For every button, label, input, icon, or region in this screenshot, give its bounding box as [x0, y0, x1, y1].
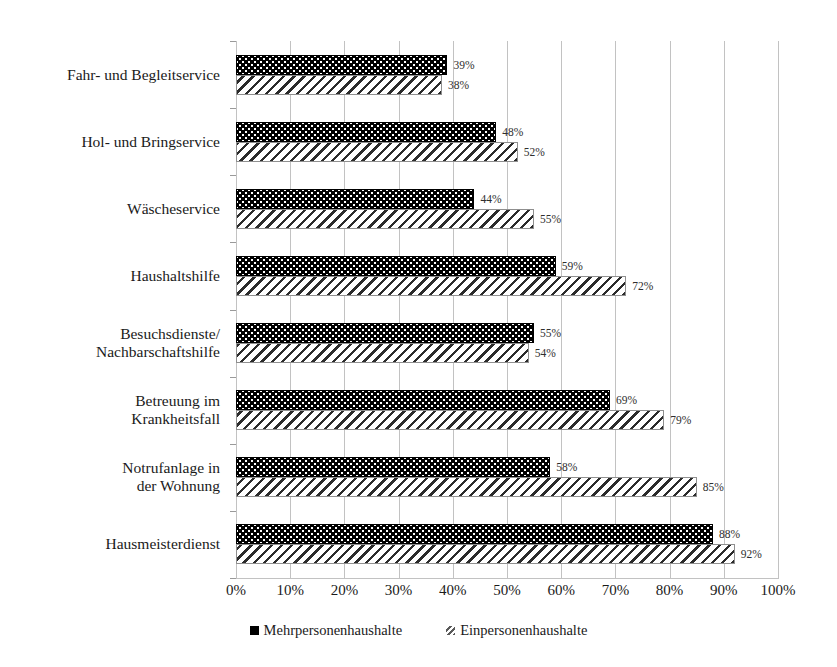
legend-label: Mehrpersonenhaushalte: [264, 622, 403, 639]
gridline-90pct: [724, 41, 725, 578]
bar-mehrpersonenhaushalte: [236, 256, 556, 276]
x-tick-label: 20%: [331, 582, 359, 599]
legend-item-mehrpersonenhaushalte: Mehrpersonenhaushalte: [250, 622, 403, 639]
gridline-60pct: [561, 41, 562, 578]
gridline-80pct: [670, 41, 671, 578]
y-axis-tick: [230, 175, 236, 176]
bar-value-label: 58%: [556, 457, 577, 477]
bar-value-label: 52%: [524, 142, 545, 162]
category-axis-labels: Fahr- und BegleitserviceHol- und Bringse…: [0, 41, 228, 578]
bar-einpersonenhaushalte: [236, 142, 518, 162]
bar-value-label: 44%: [480, 189, 501, 209]
bar-value-label: 79%: [670, 410, 691, 430]
legend-swatch-icon: [250, 626, 259, 635]
bar-einpersonenhaushalte: [236, 75, 442, 95]
bar-mehrpersonenhaushalte: [236, 323, 534, 343]
x-axis-tick-labels: 0%10%20%30%40%50%60%70%80%90%100%: [236, 582, 778, 604]
x-tick-label: 100%: [761, 582, 796, 599]
bar-value-label: 88%: [719, 524, 740, 544]
legend-label: Einpersonenhaushalte: [460, 622, 587, 639]
x-tick-label: 90%: [710, 582, 738, 599]
bar-value-label: 92%: [741, 544, 762, 564]
category-label: Hausmeisterdienst: [0, 535, 220, 553]
plot-area: 39%48%44%59%55%69%58%88%38%52%55%72%54%7…: [236, 41, 778, 578]
bar-einpersonenhaushalte: [236, 477, 697, 497]
category-label: Besuchsdienste/ Nachbarschaftshilfe: [0, 325, 220, 361]
bar-einpersonenhaushalte: [236, 544, 735, 564]
legend-item-einpersonenhaushalte: Einpersonenhaushalte: [446, 622, 587, 639]
y-axis-tick: [230, 377, 236, 378]
bar-mehrpersonenhaushalte: [236, 390, 610, 410]
bar-value-label: 38%: [448, 75, 469, 95]
bar-value-label: 55%: [540, 323, 561, 343]
bar-value-label: 48%: [502, 122, 523, 142]
y-axis-tick: [230, 242, 236, 243]
y-axis-tick: [230, 310, 236, 311]
y-axis-tick: [230, 41, 236, 42]
bar-chart: Fahr- und BegleitserviceHol- und Bringse…: [0, 0, 837, 667]
x-axis-line: [236, 578, 779, 579]
x-tick-label: 0%: [226, 582, 246, 599]
bar-einpersonenhaushalte: [236, 209, 534, 229]
gridline-100pct: [778, 41, 779, 578]
x-tick-label: 10%: [276, 582, 304, 599]
y-axis-tick: [230, 108, 236, 109]
bar-value-label: 39%: [453, 55, 474, 75]
gridline-70pct: [615, 41, 616, 578]
category-label: Hol- und Bringservice: [0, 133, 220, 151]
x-tick-label: 70%: [602, 582, 630, 599]
bar-value-label: 69%: [616, 390, 637, 410]
bar-mehrpersonenhaushalte: [236, 189, 474, 209]
bar-mehrpersonenhaushalte: [236, 524, 713, 544]
bar-mehrpersonenhaushalte: [236, 55, 447, 75]
y-axis-tick: [230, 511, 236, 512]
bar-mehrpersonenhaushalte: [236, 122, 496, 142]
x-tick-label: 50%: [493, 582, 521, 599]
y-axis-tick: [230, 578, 236, 579]
bar-einpersonenhaushalte: [236, 343, 529, 363]
x-tick-label: 60%: [547, 582, 575, 599]
y-axis-tick: [230, 444, 236, 445]
bar-einpersonenhaushalte: [236, 276, 626, 296]
bar-einpersonenhaushalte: [236, 410, 664, 430]
legend-swatch-icon: [446, 626, 455, 635]
bar-value-label: 85%: [703, 477, 724, 497]
chart-legend: MehrpersonenhaushalteEinpersonenhaushalt…: [0, 617, 837, 643]
category-label: Fahr- und Begleitservice: [0, 66, 220, 84]
bar-value-label: 55%: [540, 209, 561, 229]
bar-value-label: 72%: [632, 276, 653, 296]
bar-value-label: 54%: [535, 343, 556, 363]
x-tick-label: 40%: [439, 582, 467, 599]
x-tick-label: 80%: [656, 582, 684, 599]
x-tick-label: 30%: [385, 582, 413, 599]
category-label: Betreuung im Krankheitsfall: [0, 392, 220, 428]
category-label: Notrufanlage in der Wohnung: [0, 459, 220, 495]
category-label: Wäscheservice: [0, 200, 220, 218]
bar-mehrpersonenhaushalte: [236, 457, 550, 477]
category-label: Haushaltshilfe: [0, 267, 220, 285]
bar-value-label: 59%: [562, 256, 583, 276]
